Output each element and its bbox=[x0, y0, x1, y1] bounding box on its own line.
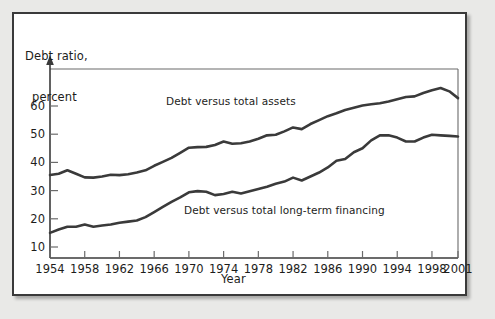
y-axis-title: Debt ratio, percent bbox=[25, 23, 88, 131]
x-tick-label-1970: 1970 bbox=[173, 262, 205, 276]
chart-panel: Debt ratio, percent Year Debt versus tot… bbox=[12, 12, 467, 296]
chart-screenshot: Debt ratio, percent Year Debt versus tot… bbox=[0, 0, 495, 319]
x-tick-label-1990: 1990 bbox=[347, 262, 379, 276]
y-tick-label-50: 50 bbox=[23, 127, 45, 141]
x-tick-label-1986: 1986 bbox=[312, 262, 344, 276]
series-line-long-term-financing bbox=[50, 135, 458, 233]
x-tick-label-1974: 1974 bbox=[208, 262, 240, 276]
x-tick-label-1958: 1958 bbox=[69, 262, 101, 276]
x-tick-label-1954: 1954 bbox=[34, 262, 66, 276]
y-tick-label-60: 60 bbox=[23, 99, 45, 113]
y-axis-title-line1: Debt ratio, bbox=[25, 50, 88, 64]
y-tick-label-40: 40 bbox=[23, 155, 45, 169]
y-tick-label-30: 30 bbox=[23, 184, 45, 198]
x-tick-label-1962: 1962 bbox=[103, 262, 135, 276]
y-tick-label-20: 20 bbox=[23, 212, 45, 226]
x-tick-label-1994: 1994 bbox=[381, 262, 413, 276]
series-annotation-long-term-financing: Debt versus total long-term financing bbox=[184, 204, 385, 216]
x-tick-label-1978: 1978 bbox=[242, 262, 274, 276]
x-tick-label-1982: 1982 bbox=[277, 262, 309, 276]
y-tick-label-10: 10 bbox=[23, 240, 45, 254]
x-axis-ticks bbox=[50, 251, 458, 258]
chart-plot-region: Debt ratio, percent Year Debt versus tot… bbox=[14, 14, 469, 298]
x-tick-label-2001: 2001 bbox=[442, 262, 474, 276]
series-annotation-total-assets: Debt versus total assets bbox=[166, 95, 296, 107]
x-tick-label-1966: 1966 bbox=[138, 262, 170, 276]
